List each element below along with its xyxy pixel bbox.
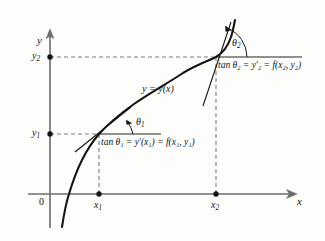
marker-x1-on-axis — [96, 191, 101, 196]
y1-tick-label: y1 — [32, 128, 40, 140]
point-markers — [47, 54, 218, 196]
x2-tick-label: x2 — [211, 200, 219, 212]
point1-equation-label: tan θ₁ = y′(x₁) = f(x₁, y₁) — [101, 138, 195, 148]
y-axis-label: y — [37, 35, 42, 46]
marker-y1-on-axis — [47, 131, 52, 136]
dashed-reference-lines — [50, 57, 216, 194]
marker-x2-on-axis — [213, 191, 218, 196]
x1-tick-label: x1 — [94, 200, 102, 212]
x2-tick-subscript: 2 — [215, 204, 219, 212]
origin-label: 0 — [39, 197, 44, 207]
theta1-label: θ1 — [136, 117, 145, 129]
x1-tick-subscript: 1 — [98, 204, 102, 212]
differential-equation-tangent-figure: y x 0 y2 y1 x1 x2 y = y(x) θ1 θ2 tan θ₁ … — [0, 0, 325, 241]
theta1-arc-arrowhead — [126, 120, 131, 125]
theta1-subscript: 1 — [141, 121, 145, 129]
point2-equation-label: tan θ₂ = y′₂ = f(x₂, y₂) — [218, 61, 301, 71]
figure-canvas — [0, 0, 325, 241]
y1-tick-subscript: 1 — [36, 132, 40, 140]
solution-curve — [62, 20, 235, 227]
solution-curve-group — [62, 20, 235, 227]
theta2-label: θ2 — [232, 38, 241, 50]
y2-tick-label: y2 — [32, 51, 40, 63]
y2-tick-subscript: 2 — [36, 55, 40, 63]
marker-y2-on-axis — [47, 54, 52, 59]
x-axis-label: x — [297, 196, 302, 207]
theta2-arc-arrowhead — [225, 26, 231, 32]
curve-label: y = y(x) — [142, 84, 174, 94]
theta2-subscript: 2 — [237, 42, 241, 50]
